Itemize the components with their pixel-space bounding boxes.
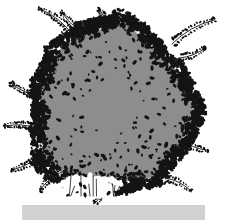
shrub-illustration: Shrub habit illustration (0, 0, 226, 220)
shrub-scene-svg (0, 0, 226, 220)
ground-plane-bar (22, 205, 205, 220)
